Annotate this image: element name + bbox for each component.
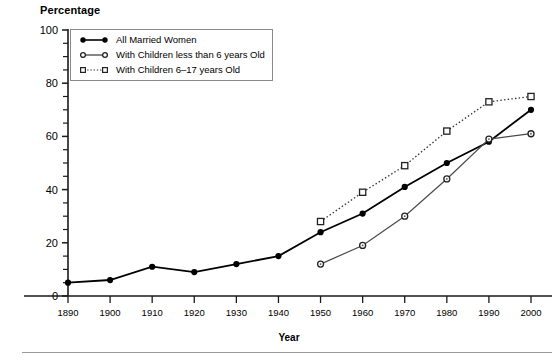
x-axis-title: Year <box>0 332 558 343</box>
data-point <box>275 253 281 259</box>
data-point-center <box>446 178 448 180</box>
x-axis-tick-label: 1910 <box>142 307 163 318</box>
data-point <box>317 229 323 235</box>
data-point-center <box>362 245 364 247</box>
x-axis-tick-label: 1990 <box>478 307 499 318</box>
y-axis-tick-label: 80 <box>46 77 58 89</box>
open-circle-icon <box>79 49 109 61</box>
x-axis-tick-label: 1890 <box>57 307 78 318</box>
data-point-center <box>488 138 490 140</box>
series-line <box>321 97 532 222</box>
data-point <box>444 160 450 166</box>
x-axis-tick-label: 1960 <box>352 307 373 318</box>
data-point <box>149 264 155 270</box>
x-axis-tick-label: 1900 <box>100 307 121 318</box>
x-axis-tick-label: 1970 <box>394 307 415 318</box>
data-point <box>528 107 534 113</box>
y-axis-tick-label: 40 <box>46 184 58 196</box>
filled-circle-icon <box>79 34 109 46</box>
data-point <box>360 210 366 216</box>
data-point <box>528 93 534 99</box>
series-line <box>321 134 532 264</box>
data-point <box>402 184 408 190</box>
data-point <box>65 280 71 286</box>
legend-label: With Children less than 6 years Old <box>116 49 265 61</box>
open-square-icon <box>79 64 109 76</box>
data-point-center <box>320 263 322 265</box>
data-point <box>317 218 323 224</box>
data-point <box>191 269 197 275</box>
data-point <box>233 261 239 267</box>
data-point <box>360 189 366 195</box>
y-axis-tick-label: 20 <box>46 237 58 249</box>
data-point-center <box>404 215 406 217</box>
x-axis-tick-label: 2000 <box>520 307 541 318</box>
y-axis-tick-label: 0 <box>52 290 58 302</box>
legend-label: All Married Women <box>116 34 197 46</box>
chart-container: Percentage 02040608010018901900191019201… <box>0 0 558 361</box>
x-axis-tick-label: 1920 <box>184 307 205 318</box>
legend-label: With Children 6–17 years Old <box>116 64 240 76</box>
legend-item-all-married-women: All Married Women <box>79 33 197 47</box>
data-point <box>486 99 492 105</box>
data-point <box>402 163 408 169</box>
x-axis-tick-label: 1930 <box>226 307 247 318</box>
legend-item-children-6-17: With Children 6–17 years Old <box>79 63 240 77</box>
series-line <box>68 110 531 283</box>
series-2 <box>317 93 534 224</box>
y-axis-tick-label: 60 <box>46 130 58 142</box>
footer-divider <box>22 352 552 353</box>
x-axis-tick-label: 1940 <box>268 307 289 318</box>
x-axis-tick-label: 1950 <box>310 307 331 318</box>
x-axis-tick-label: 1980 <box>436 307 457 318</box>
series-1 <box>318 131 534 267</box>
legend-item-children-under-6: With Children less than 6 years Old <box>79 48 265 62</box>
y-axis-tick-label: 100 <box>40 24 58 36</box>
data-point <box>107 277 113 283</box>
data-point <box>444 128 450 134</box>
chart-legend: All Married Women With Children less tha… <box>70 29 273 81</box>
data-point-center <box>530 133 532 135</box>
series-0 <box>65 107 534 286</box>
